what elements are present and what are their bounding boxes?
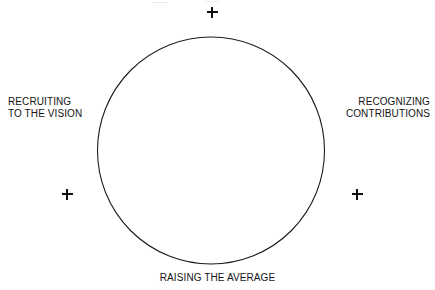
plus-marker-top-icon (207, 7, 218, 18)
plus-marker-left-icon (62, 189, 73, 200)
circle-graphic (0, 0, 435, 290)
label-left-line1: RECRUITING (8, 96, 71, 107)
label-right-line1: RECOGNIZING (358, 96, 430, 107)
diagram-canvas: RECRUITINGTO THE VISION RECOGNIZINGCONTR… (0, 0, 435, 290)
scan-artifact (152, 2, 168, 3)
label-right-line2: CONTRIBUTIONS (346, 108, 430, 119)
label-recognizing-contributions: RECOGNIZINGCONTRIBUTIONS (346, 96, 430, 120)
main-circle-shape (98, 37, 325, 264)
scan-artifact (205, 1, 219, 2)
label-left-line2: TO THE VISION (8, 108, 82, 119)
label-raising-the-average: RAISING THE AVERAGE (0, 272, 435, 284)
plus-marker-right-icon (352, 189, 363, 200)
label-recruiting-to-the-vision: RECRUITINGTO THE VISION (8, 96, 82, 120)
